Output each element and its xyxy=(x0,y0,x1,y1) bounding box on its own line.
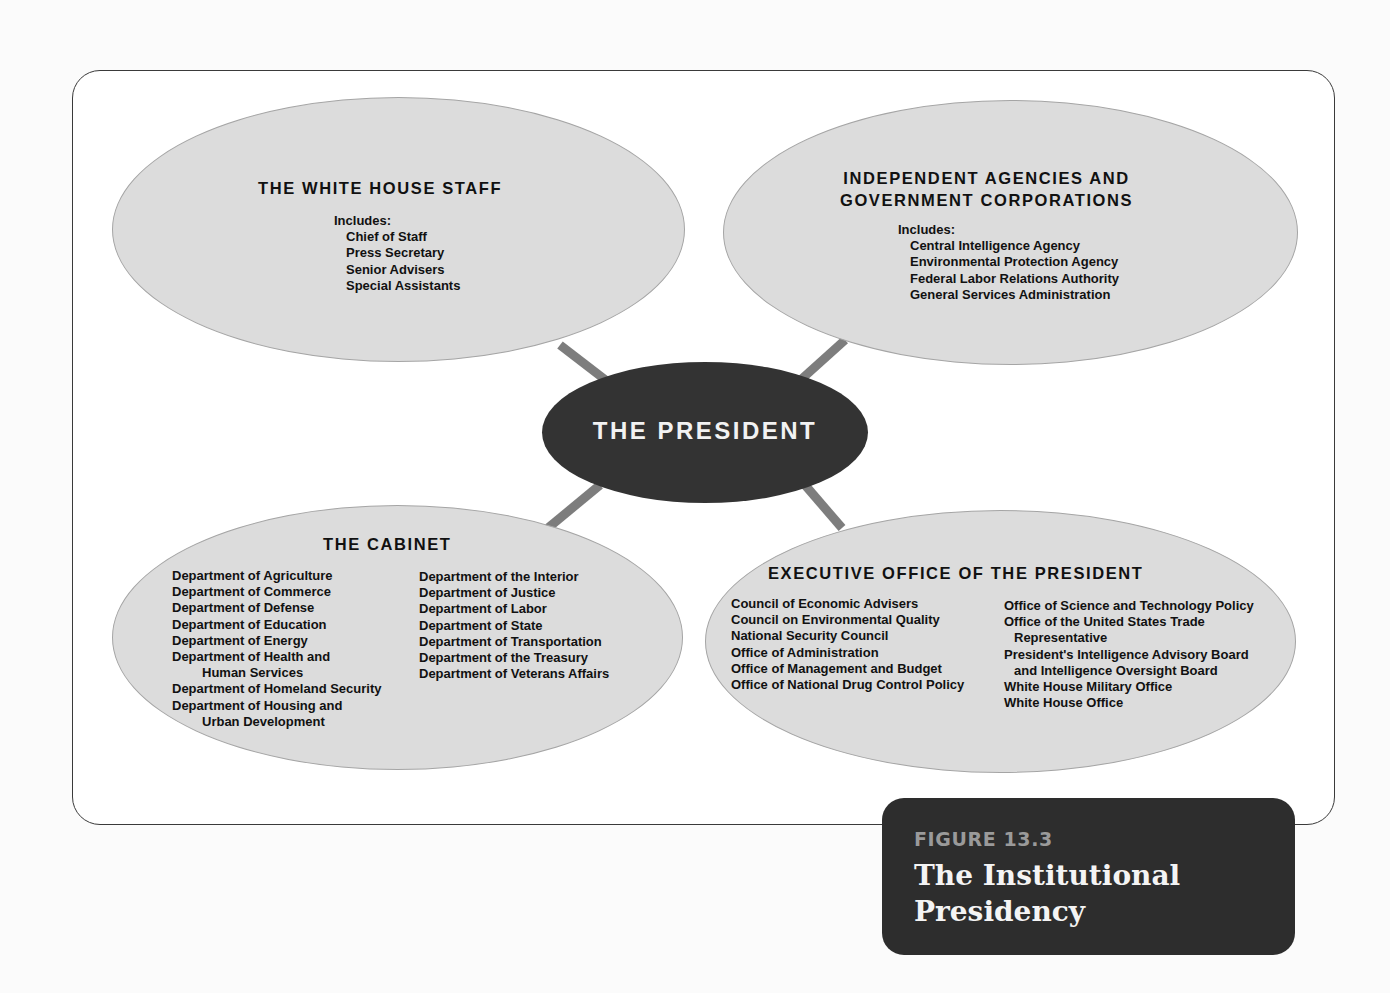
list-item: Chief of Staff xyxy=(334,229,460,245)
list-item: Human Services xyxy=(172,665,382,681)
list-item: Office of Management and Budget xyxy=(731,661,964,677)
list-item: Department of Commerce xyxy=(172,584,382,600)
includes-label: Includes: xyxy=(898,222,1119,238)
independent-agencies-title-line1: INDEPENDENT AGENCIES AND xyxy=(840,167,1133,189)
list-item: Council of Economic Advisers xyxy=(731,596,964,612)
white-house-staff-list: Includes: Chief of Staff Press Secretary… xyxy=(334,213,460,294)
list-item: President's Intelligence Advisory Board xyxy=(1004,647,1254,663)
list-item: Central Intelligence Agency xyxy=(898,238,1119,254)
executive-office-list-col2: Office of Science and Technology Policy … xyxy=(1004,598,1254,711)
list-item: Department of Health and xyxy=(172,649,382,665)
includes-label: Includes: xyxy=(334,213,460,229)
president-ellipse: THE PRESIDENT xyxy=(542,362,868,503)
white-house-staff-title: THE WHITE HOUSE STAFF xyxy=(258,179,502,198)
connector-executive-office xyxy=(805,485,842,528)
list-item: Environmental Protection Agency xyxy=(898,254,1119,270)
list-item: Department of Agriculture xyxy=(172,568,382,584)
list-item: Office of National Drug Control Policy xyxy=(731,677,964,693)
list-item: Department of the Interior xyxy=(419,569,609,585)
connector-cabinet xyxy=(548,485,600,528)
list-item: Office of Administration xyxy=(731,645,964,661)
cabinet-title: THE CABINET xyxy=(323,535,452,554)
list-item: Department of Transportation xyxy=(419,634,609,650)
list-item: Senior Advisers xyxy=(334,262,460,278)
list-item: White House Office xyxy=(1004,695,1254,711)
cabinet-list-col1: Department of Agriculture Department of … xyxy=(172,568,382,730)
figure-title: The Institutional Presidency xyxy=(914,858,1180,930)
list-item: Department of Education xyxy=(172,617,382,633)
figure-title-line2: Presidency xyxy=(914,894,1180,930)
list-item: Department of Labor xyxy=(419,601,609,617)
independent-agencies-title: INDEPENDENT AGENCIES AND GOVERNMENT CORP… xyxy=(840,167,1133,211)
list-item: Special Assistants xyxy=(334,278,460,294)
executive-office-title: EXECUTIVE OFFICE OF THE PRESIDENT xyxy=(768,564,1144,583)
list-item: Council on Environmental Quality xyxy=(731,612,964,628)
list-item: Department of Veterans Affairs xyxy=(419,666,609,682)
cabinet-list-col2: Department of the Interior Department of… xyxy=(419,569,609,682)
list-item: Department of Energy xyxy=(172,633,382,649)
list-item: Department of Homeland Security xyxy=(172,681,382,697)
list-item: Department of the Treasury xyxy=(419,650,609,666)
list-item: Department of Justice xyxy=(419,585,609,601)
independent-agencies-list: Includes: Central Intelligence Agency En… xyxy=(898,222,1119,303)
independent-agencies-title-line2: GOVERNMENT CORPORATIONS xyxy=(840,189,1133,211)
list-item: Representative xyxy=(1004,630,1254,646)
list-item: White House Military Office xyxy=(1004,679,1254,695)
list-item: Department of Defense xyxy=(172,600,382,616)
list-item: and Intelligence Oversight Board xyxy=(1004,663,1254,679)
list-item: General Services Administration xyxy=(898,287,1119,303)
executive-office-list-col1: Council of Economic Advisers Council on … xyxy=(731,596,964,693)
list-item: Press Secretary xyxy=(334,245,460,261)
figure-caption-box: FIGURE 13.3 The Institutional Presidency xyxy=(882,798,1295,955)
list-item: Department of Housing and xyxy=(172,698,382,714)
president-label: THE PRESIDENT xyxy=(542,417,868,445)
figure-number: FIGURE 13.3 xyxy=(914,828,1053,850)
list-item: Office of the United States Trade xyxy=(1004,614,1254,630)
list-item: National Security Council xyxy=(731,628,964,644)
figure-title-line1: The Institutional xyxy=(914,858,1180,894)
list-item: Department of State xyxy=(419,618,609,634)
list-item: Office of Science and Technology Policy xyxy=(1004,598,1254,614)
list-item: Federal Labor Relations Authority xyxy=(898,271,1119,287)
list-item: Urban Development xyxy=(172,714,382,730)
